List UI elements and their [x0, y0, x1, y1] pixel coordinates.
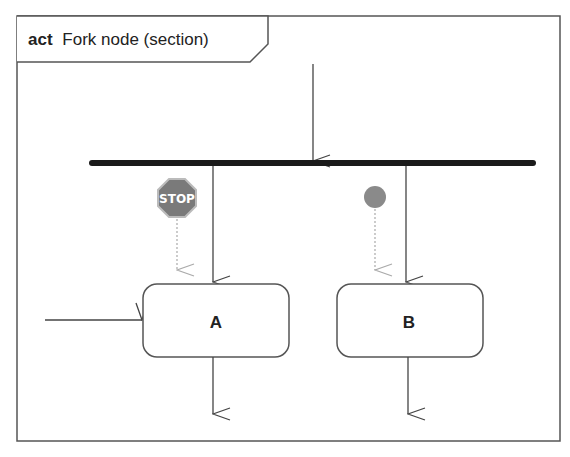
frame-title: act Fork node (section) — [28, 30, 209, 49]
activity-diagram: act Fork node (section) STOP A B — [0, 0, 570, 457]
token-dot-icon — [364, 186, 386, 208]
action-b[interactable]: B — [337, 284, 483, 357]
action-b-label: B — [403, 313, 415, 332]
stop-sign-text: STOP — [159, 192, 195, 206]
frame-name: Fork node (section) — [62, 30, 208, 49]
diagram-frame — [17, 16, 560, 441]
stop-sign-icon: STOP — [158, 179, 196, 217]
action-a[interactable]: A — [143, 284, 289, 357]
frame-keyword: act — [28, 30, 53, 49]
action-a-label: A — [210, 313, 222, 332]
